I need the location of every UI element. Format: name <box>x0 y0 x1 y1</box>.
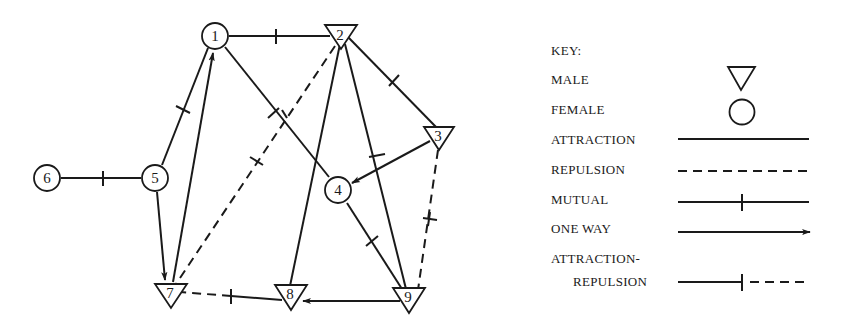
legend-label-repulsion: REPULSION <box>551 162 626 177</box>
node-label: 8 <box>286 286 294 302</box>
mutual-tick-icon <box>369 154 385 157</box>
node-label: 9 <box>404 289 412 305</box>
edge-2-7 <box>176 46 335 284</box>
edge-5-7 <box>157 192 165 280</box>
node-7: 7 <box>155 284 187 308</box>
node-6: 6 <box>34 165 60 191</box>
node-8: 8 <box>275 285 307 310</box>
edge-1-5 <box>162 48 208 165</box>
edge-4-9 <box>347 203 402 289</box>
edge-2-8 <box>290 44 340 286</box>
legend-label-one-way: ONE WAY <box>551 221 612 236</box>
node-5: 5 <box>142 165 168 191</box>
nodes: 1 2 3 4 5 6 7 8 <box>34 23 454 313</box>
edge-3-4 <box>352 141 430 183</box>
edge-2-9 <box>345 44 406 289</box>
legend-label-attraction: ATTRACTION <box>551 132 636 147</box>
node-label: 5 <box>151 170 159 186</box>
node-label: 7 <box>166 285 174 301</box>
mutual-tick-icon <box>366 236 378 246</box>
sociogram-diagram: 1 2 3 4 5 6 7 8 <box>0 0 846 322</box>
node-label: 2 <box>336 27 344 43</box>
node-label: 6 <box>43 170 51 186</box>
legend-heading: KEY: <box>551 43 581 58</box>
node-1: 1 <box>202 23 228 49</box>
legend-label-attraction-repulsion-2: REPULSION <box>573 274 648 289</box>
legend-label-mutual: MUTUAL <box>551 192 608 207</box>
legend-label-attraction-repulsion-1: ATTRACTION- <box>551 251 640 266</box>
edges <box>61 29 438 304</box>
female-icon <box>730 100 755 125</box>
node-4: 4 <box>325 177 351 203</box>
edge-8-7-repulsion <box>180 292 231 296</box>
legend-label-female: FEMALE <box>551 102 605 117</box>
legend-label-male: MALE <box>551 72 589 87</box>
legend: KEY: MALE FEMALE ATTRACTION REPULSION MU… <box>551 43 810 291</box>
node-label: 3 <box>434 128 442 144</box>
male-icon <box>728 67 755 90</box>
node-label: 4 <box>334 182 342 198</box>
mutual-tick-icon <box>282 110 287 118</box>
edge-8-7-attraction <box>231 296 282 300</box>
node-label: 1 <box>211 28 219 44</box>
edge-1-4 <box>225 47 329 177</box>
node-3: 3 <box>424 127 454 150</box>
